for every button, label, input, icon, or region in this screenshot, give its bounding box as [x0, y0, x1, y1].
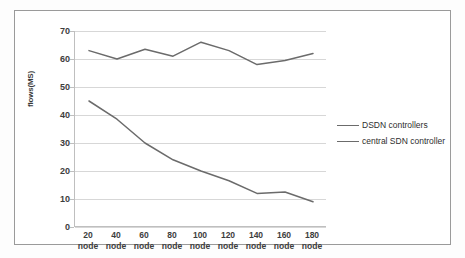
x-axis-tick-unit: node — [102, 241, 130, 252]
series-lines — [75, 31, 327, 227]
y-axis-tick: 50 — [36, 83, 70, 92]
legend-line-swatch — [337, 141, 359, 142]
legend-label: DSDN controllers — [362, 120, 428, 130]
x-axis-tick-unit: node — [242, 241, 270, 252]
x-axis-tick: 140node — [242, 230, 270, 258]
x-axis-tick-labels: 20node40node60node80node100node120node14… — [74, 230, 326, 258]
x-axis-tick: 120node — [214, 230, 242, 258]
x-axis-tick-unit: node — [74, 241, 102, 252]
series-line-1 — [89, 101, 313, 202]
y-axis-tick: 60 — [36, 55, 70, 64]
x-axis-tick-unit: node — [130, 241, 158, 252]
y-axis-tick: 20 — [36, 167, 70, 176]
series-line-0 — [89, 42, 313, 64]
x-axis-tick-number: 120 — [214, 230, 242, 241]
x-axis-tick-number: 60 — [130, 230, 158, 241]
y-axis-tick-labels: 010203040506070 — [32, 31, 70, 227]
x-axis-tick: 20node — [74, 230, 102, 258]
x-axis-tick-number: 80 — [158, 230, 186, 241]
x-axis-tick-number: 40 — [102, 230, 130, 241]
x-axis-tick-number: 180 — [298, 230, 326, 241]
x-axis-tick: 60node — [130, 230, 158, 258]
y-axis-tick: 10 — [36, 195, 70, 204]
x-axis-tick: 100node — [186, 230, 214, 258]
x-axis-tick: 160node — [270, 230, 298, 258]
legend-item[interactable]: DSDN controllers — [337, 117, 462, 133]
legend-item[interactable]: central SDN controller — [337, 133, 462, 149]
y-axis-tick: 30 — [36, 139, 70, 148]
x-axis-tick-unit: node — [186, 241, 214, 252]
legend-line-swatch — [337, 125, 359, 126]
x-axis-tick-unit: node — [298, 241, 326, 252]
x-axis-tick: 80node — [158, 230, 186, 258]
y-axis-tick-mark — [70, 227, 74, 228]
chart-legend: DSDN controllerscentral SDN controller — [337, 117, 462, 149]
x-axis-tick: 180node — [298, 230, 326, 258]
x-axis-tick-number: 100 — [186, 230, 214, 241]
figure-root: flows(MS) 010203040506070 20node40node60… — [0, 0, 465, 258]
x-axis-tick-number: 20 — [74, 230, 102, 241]
legend-label: central SDN controller — [362, 136, 445, 146]
plot-area — [74, 31, 326, 227]
gridline — [75, 227, 326, 228]
x-axis-tick-number: 140 — [242, 230, 270, 241]
y-axis-tick: 70 — [36, 27, 70, 36]
y-axis-tick: 0 — [36, 223, 70, 232]
chart-frame: flows(MS) 010203040506070 20node40node60… — [14, 10, 451, 245]
y-axis-tick: 40 — [36, 111, 70, 120]
x-axis-tick-number: 160 — [270, 230, 298, 241]
x-axis-tick-unit: node — [214, 241, 242, 252]
x-axis-tick: 40node — [102, 230, 130, 258]
x-axis-tick-unit: node — [270, 241, 298, 252]
x-axis-tick-unit: node — [158, 241, 186, 252]
